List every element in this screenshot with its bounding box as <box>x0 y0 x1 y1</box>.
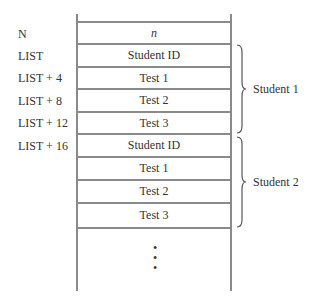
cell-student2-test1: Test 1 <box>78 158 230 178</box>
cell-student2-test3: Test 3 <box>78 205 230 225</box>
address-label-n: N <box>18 24 27 44</box>
group-label-student1: Student 1 <box>253 81 299 97</box>
memory-right-border <box>230 14 232 291</box>
address-label-list-8: LIST + 8 <box>18 91 62 111</box>
address-label-list-4: LIST + 4 <box>18 68 62 88</box>
address-label-list-12: LIST + 12 <box>18 113 68 133</box>
cell-student1-test2: Test 2 <box>78 90 230 110</box>
cell-n: n <box>78 23 230 43</box>
continuation-dots: • • • <box>150 243 160 273</box>
cell-student1-test3: Test 3 <box>78 113 230 133</box>
cell-student2-test2: Test 2 <box>78 181 230 201</box>
cell-divider <box>76 202 232 204</box>
cell-student2-id: Student ID <box>78 135 230 155</box>
student2-brace-icon <box>236 136 248 228</box>
address-label-list: LIST <box>18 46 43 66</box>
group-label-student2: Student 2 <box>253 174 299 190</box>
cell-student1-test1: Test 1 <box>78 68 230 88</box>
student1-brace-icon <box>236 44 248 134</box>
dot: • <box>150 263 160 273</box>
cell-student1-id: Student ID <box>78 45 230 65</box>
cell-divider <box>76 227 232 229</box>
address-label-list-16: LIST + 16 <box>18 136 68 156</box>
